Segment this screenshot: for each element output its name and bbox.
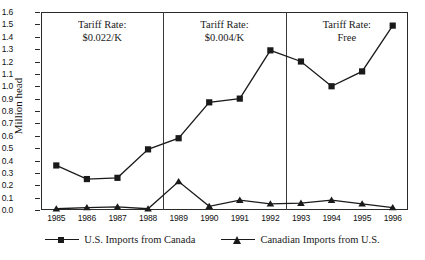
x-axis-tick-1991: 1991 [231,213,249,223]
tariff-annotation-value: Free [323,31,371,44]
y-tick-mark [35,111,40,112]
legend-label-canadian-imports-from-us: Canadian Imports from U.S. [260,234,379,245]
x-axis-tick-1988: 1988 [139,213,157,223]
y-axis-title: Million head [12,36,24,176]
tariff-annotation-1: Tariff Rate:$0.022/K [78,18,126,44]
tariff-annotation-value: $0.022/K [78,31,126,44]
tariff-annotation-value: $0.004/K [200,31,248,44]
x-axis-tick-1992: 1992 [261,213,279,223]
y-axis-tick-0-0: 0.0 [0,205,13,215]
x-axis-tick-1987: 1987 [108,213,126,223]
y-axis-tick-0-8: 0.8 [0,106,13,116]
y-tick-mark [35,173,40,174]
y-tick-mark [35,74,40,75]
y-axis-tick-0-7: 0.7 [0,118,13,128]
y-tick-mark [35,148,40,149]
y-tick-mark [35,123,40,124]
tariff-annotation-title: Tariff Rate: [200,18,248,31]
x-axis-tick-1994: 1994 [322,213,340,223]
x-axis-tick-1995: 1995 [353,213,371,223]
x-axis-tick-1996: 1996 [384,213,402,223]
y-axis-tick-0-6: 0.6 [0,131,13,141]
y-axis-tick-1-2: 1.2 [0,57,13,67]
x-axis-tick-1985: 1985 [47,213,65,223]
y-tick-mark [35,198,40,199]
y-tick-mark [35,185,40,186]
y-axis-tick-1-5: 1.5 [0,19,13,29]
tariff-annotation-title: Tariff Rate: [78,18,126,31]
x-axis-tick-1986: 1986 [78,213,96,223]
legend-label-us-imports-from-canada: U.S. Imports from Canada [84,234,195,245]
tariff-annotation-2: Tariff Rate:$0.004/K [200,18,248,44]
y-tick-mark [35,99,40,100]
y-axis-tick-1-4: 1.4 [0,32,13,42]
y-axis-tick-1-3: 1.3 [0,44,13,54]
y-axis-tick-0-3: 0.3 [0,168,13,178]
y-axis-tick-1-0: 1.0 [0,81,13,91]
y-tick-mark [35,210,40,211]
square-marker-icon [58,237,64,243]
tariff-divider-1 [163,12,164,210]
y-tick-mark [35,12,40,13]
x-axis-tick-1993: 1993 [292,213,310,223]
y-axis-tick-0-1: 0.1 [0,193,13,203]
chart-legend: U.S. Imports from Canada Canadian Import… [0,234,425,245]
x-axis-tick-1990: 1990 [200,213,218,223]
y-axis-tick-1-1: 1.1 [0,69,13,79]
y-tick-mark [35,136,40,137]
y-tick-mark [35,24,40,25]
chart-figure: Million head 0.00.10.20.30.40.50.60.70.8… [0,0,425,260]
legend-item-canadian-imports-from-us: Canadian Imports from U.S. [221,234,379,245]
tariff-divider-2 [286,12,287,210]
y-axis-tick-0-5: 0.5 [0,143,13,153]
y-axis-tick-0-2: 0.2 [0,180,13,190]
tariff-annotation-title: Tariff Rate: [323,18,371,31]
tariff-annotation-3: Tariff Rate:Free [323,18,371,44]
y-tick-mark [35,62,40,63]
legend-line-square-icon [45,235,79,244]
y-tick-mark [35,86,40,87]
triangle-marker-icon [233,236,241,244]
legend-line-triangle-icon [221,235,255,244]
y-axis-tick-0-9: 0.9 [0,94,13,104]
x-axis-tick-1989: 1989 [170,213,188,223]
y-axis-tick-0-4: 0.4 [0,156,13,166]
y-axis-tick-1-6: 1.6 [0,7,13,17]
legend-item-us-imports-from-canada: U.S. Imports from Canada [45,234,195,245]
y-tick-mark [35,161,40,162]
y-tick-mark [35,37,40,38]
y-tick-mark [35,49,40,50]
